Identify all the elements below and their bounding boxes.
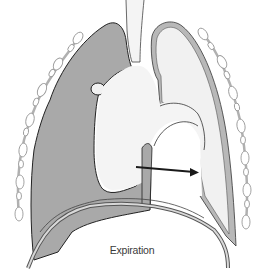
figure-caption: Expiration <box>0 244 264 256</box>
expiration-diagram <box>0 0 264 269</box>
trachea <box>126 0 144 62</box>
